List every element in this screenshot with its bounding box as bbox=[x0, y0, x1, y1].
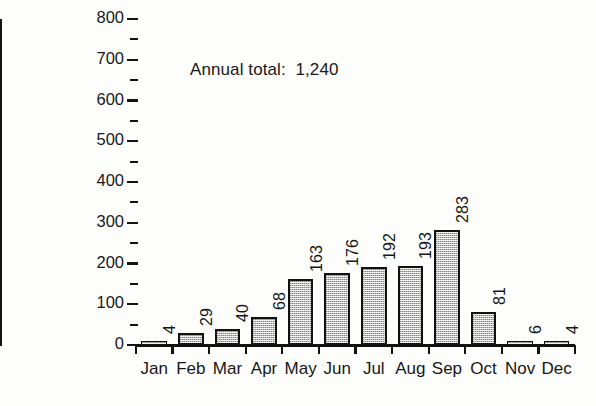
y-tick-label: 600 bbox=[60, 90, 124, 109]
bar-dec bbox=[544, 341, 570, 345]
x-tick bbox=[171, 345, 173, 354]
bar-feb bbox=[178, 333, 204, 345]
y-tick-major bbox=[127, 140, 138, 142]
y-tick-major bbox=[127, 18, 138, 20]
x-tick bbox=[135, 345, 137, 354]
y-tick-minor bbox=[130, 120, 138, 122]
bar-value-label: 283 bbox=[454, 196, 472, 223]
y-tick-minor bbox=[130, 161, 138, 163]
y-tick-label: 700 bbox=[60, 49, 124, 68]
rainfall-bar-chart: Rainfall (mm) 0100200300400500600700800 … bbox=[0, 0, 596, 406]
x-tick bbox=[281, 345, 283, 354]
bar-value-label: 40 bbox=[234, 304, 252, 322]
x-label-dec: Dec bbox=[531, 359, 583, 379]
y-tick-major bbox=[127, 99, 138, 101]
bar-value-label: 193 bbox=[417, 232, 435, 259]
bar-jul bbox=[361, 267, 387, 345]
bar-value-label: 68 bbox=[271, 292, 289, 310]
y-tick-minor bbox=[130, 79, 138, 81]
x-tick bbox=[208, 345, 210, 354]
y-tick-label: 300 bbox=[60, 212, 124, 231]
y-tick-label: 800 bbox=[60, 8, 124, 27]
bar-value-label: 4 bbox=[564, 325, 582, 334]
x-tick bbox=[574, 345, 576, 354]
bar-apr bbox=[251, 317, 277, 345]
bar-value-label: 4 bbox=[161, 325, 179, 334]
x-tick bbox=[537, 345, 539, 354]
bar-value-label: 176 bbox=[344, 239, 362, 266]
bar-value-label: 29 bbox=[198, 308, 216, 326]
y-tick-major bbox=[127, 303, 138, 305]
bar-value-label: 163 bbox=[308, 245, 326, 272]
x-tick bbox=[501, 345, 503, 354]
y-tick-major bbox=[127, 59, 138, 61]
annual-total-annotation: Annual total: 1,240 bbox=[190, 60, 339, 80]
bar-oct bbox=[471, 312, 497, 345]
y-tick-minor bbox=[130, 201, 138, 203]
x-tick bbox=[318, 345, 320, 354]
y-tick-minor bbox=[130, 242, 138, 244]
y-axis-line bbox=[0, 19, 2, 346]
x-tick bbox=[354, 345, 356, 354]
bar-value-label: 81 bbox=[491, 287, 509, 305]
x-tick bbox=[245, 345, 247, 354]
y-tick-minor bbox=[130, 38, 138, 40]
y-tick-major bbox=[127, 181, 138, 183]
bar-mar bbox=[215, 329, 241, 345]
y-tick-label: 400 bbox=[60, 171, 124, 190]
x-tick bbox=[391, 345, 393, 354]
y-tick-major bbox=[127, 222, 138, 224]
y-tick-minor bbox=[130, 324, 138, 326]
y-tick-label: 200 bbox=[60, 253, 124, 272]
y-tick-major bbox=[127, 262, 138, 264]
x-tick bbox=[428, 345, 430, 354]
bar-may bbox=[288, 279, 314, 345]
bar-sep bbox=[434, 230, 460, 345]
y-tick-label: 0 bbox=[60, 334, 124, 353]
bar-jun bbox=[324, 273, 350, 345]
y-tick-label: 500 bbox=[60, 130, 124, 149]
y-tick-minor bbox=[130, 283, 138, 285]
bar-nov bbox=[507, 341, 533, 345]
bar-aug bbox=[398, 266, 424, 345]
x-tick bbox=[464, 345, 466, 354]
bar-jan bbox=[141, 341, 167, 345]
bar-value-label: 6 bbox=[527, 325, 545, 334]
y-tick-label: 100 bbox=[60, 293, 124, 312]
bar-value-label: 192 bbox=[381, 233, 399, 260]
